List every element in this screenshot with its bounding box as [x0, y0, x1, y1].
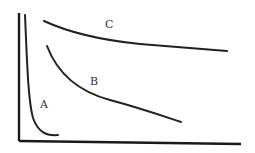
curve-c-label: C: [105, 18, 113, 31]
curve-b-label: B: [90, 75, 98, 88]
curve-a-label: A: [39, 98, 49, 111]
decay-curves-diagram: A B C: [0, 0, 255, 153]
x-axis: [19, 141, 241, 144]
curve-b: [47, 46, 181, 122]
axes: [19, 13, 241, 144]
curve-a: [25, 15, 58, 135]
curve-c: [44, 21, 227, 51]
